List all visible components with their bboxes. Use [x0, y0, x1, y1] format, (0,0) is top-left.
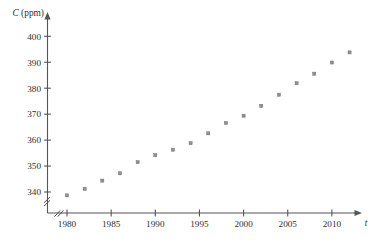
data-point: [242, 114, 245, 117]
data-point: [313, 72, 316, 75]
data-point: [207, 132, 210, 135]
y-tick-label-400: 400: [27, 32, 41, 42]
x-tick-label-1985: 1985: [102, 219, 121, 229]
y-tick-label-370: 370: [27, 109, 41, 119]
x-tick-label-2005: 2005: [279, 219, 298, 229]
x-tick-label-1995: 1995: [190, 219, 209, 229]
data-point: [277, 93, 280, 96]
x-axis-arrow: [355, 210, 363, 216]
x-tick-label-1980: 1980: [58, 219, 77, 229]
data-point: [189, 142, 192, 145]
x-tick-label-2010: 2010: [323, 219, 342, 229]
y-tick-label-350: 350: [27, 161, 41, 171]
data-point: [101, 179, 104, 182]
y-tick-label-360: 360: [27, 135, 41, 145]
x-tick-label-1990: 1990: [146, 219, 165, 229]
data-point: [171, 148, 174, 151]
data-point: [260, 104, 263, 107]
y-axis-title: C (ppm): [12, 8, 44, 19]
data-point: [348, 51, 351, 54]
y-tick-label-390: 390: [27, 58, 41, 68]
data-point: [65, 194, 68, 197]
data-point: [330, 61, 333, 64]
data-point: [136, 161, 139, 164]
y-tick-label-340: 340: [27, 187, 41, 197]
data-point: [224, 121, 227, 124]
y-tick-label-380: 380: [27, 84, 41, 94]
x-axis-title: t: [365, 218, 368, 228]
y-axis-arrow: [44, 12, 50, 20]
data-point: [295, 82, 298, 85]
co2-scatter-figure: 3403503603703803904001980198519901995200…: [0, 0, 372, 243]
data-point: [154, 154, 157, 157]
data-point: [83, 187, 86, 190]
x-tick-label-2000: 2000: [234, 219, 253, 229]
plot-canvas: 3403503603703803904001980198519901995200…: [0, 0, 372, 243]
data-point: [118, 172, 121, 175]
